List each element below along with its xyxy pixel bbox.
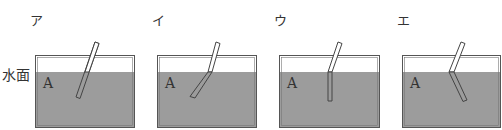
panel-e: A [403,42,501,128]
panel-a: A [36,42,135,128]
substance-label: A [164,75,176,91]
rod-above [328,42,342,72]
rod-below [328,72,332,101]
rod-above [85,42,99,72]
rod-above [449,42,465,72]
substance-label: A [409,75,421,91]
panel-u: A [280,42,380,128]
panel-i: A [158,42,257,128]
substance-label: A [42,75,54,91]
substance-label: A [286,75,298,91]
rod-above [208,42,220,72]
